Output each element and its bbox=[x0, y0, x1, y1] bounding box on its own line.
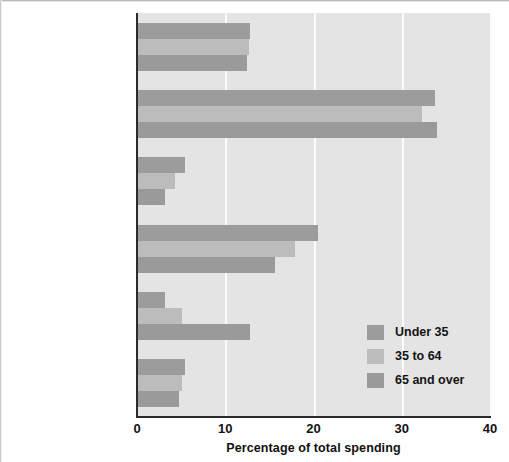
bar-group bbox=[137, 157, 490, 205]
bar[interactable] bbox=[137, 257, 275, 273]
x-axis-title: Percentage of total spending bbox=[137, 441, 490, 455]
bar[interactable] bbox=[137, 292, 165, 308]
gridline-10 bbox=[225, 13, 227, 417]
bar[interactable] bbox=[137, 391, 179, 407]
bar[interactable] bbox=[137, 225, 318, 241]
x-axis-line bbox=[136, 416, 491, 418]
y-axis-line bbox=[136, 13, 138, 418]
x-tick-label-30: 30 bbox=[382, 421, 422, 436]
bar[interactable] bbox=[137, 189, 165, 205]
x-tick-label-40: 40 bbox=[470, 421, 509, 436]
bar-group bbox=[137, 225, 490, 273]
bar-group bbox=[137, 90, 490, 138]
gridline-20 bbox=[314, 13, 316, 417]
gridline-40 bbox=[490, 13, 492, 417]
bar[interactable] bbox=[137, 241, 295, 257]
bar[interactable] bbox=[137, 106, 422, 122]
legend-item[interactable]: 65 and over bbox=[367, 368, 487, 392]
legend-swatch-icon bbox=[367, 349, 384, 364]
bar[interactable] bbox=[137, 375, 182, 391]
legend-label: 35 to 64 bbox=[395, 349, 442, 363]
bar[interactable] bbox=[137, 308, 182, 324]
bar[interactable] bbox=[137, 122, 437, 138]
legend-swatch-icon bbox=[367, 373, 384, 388]
bar[interactable] bbox=[137, 23, 250, 39]
bar[interactable] bbox=[137, 173, 175, 189]
x-tick-label-0: 0 bbox=[117, 421, 157, 436]
chart-legend: Under 3535 to 6465 and over bbox=[367, 320, 487, 392]
bar-chart-figure: FoodHousingApparel and servicesTransport… bbox=[0, 0, 509, 462]
legend-swatch-icon bbox=[367, 325, 384, 340]
bar-group bbox=[137, 23, 490, 71]
legend-label: 65 and over bbox=[395, 373, 464, 387]
x-tick-label-10: 10 bbox=[205, 421, 245, 436]
bar[interactable] bbox=[137, 39, 249, 55]
legend-item[interactable]: Under 35 bbox=[367, 320, 487, 344]
legend-label: Under 35 bbox=[395, 325, 449, 339]
x-tick-label-20: 20 bbox=[294, 421, 334, 436]
bar[interactable] bbox=[137, 324, 250, 340]
bar[interactable] bbox=[137, 55, 247, 71]
legend-item[interactable]: 35 to 64 bbox=[367, 344, 487, 368]
bar[interactable] bbox=[137, 359, 185, 375]
bar[interactable] bbox=[137, 90, 435, 106]
bar[interactable] bbox=[137, 157, 185, 173]
